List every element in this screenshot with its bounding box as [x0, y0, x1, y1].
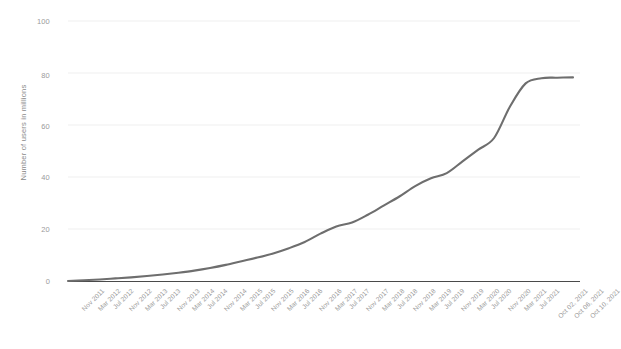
gridlines [68, 21, 580, 229]
data-series-line [68, 77, 573, 281]
